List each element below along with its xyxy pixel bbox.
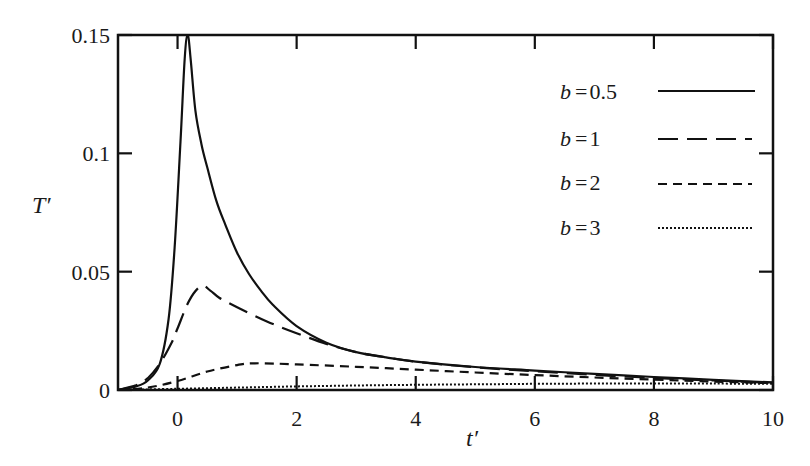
- axis-ticks: [118, 35, 773, 390]
- series-long-dash-line: [118, 286, 773, 390]
- y-tick-label: 0.1: [83, 141, 111, 166]
- x-tick-label: 2: [291, 406, 302, 431]
- x-axis-label: t′: [466, 425, 479, 451]
- y-tick-label: 0: [99, 378, 110, 403]
- series-short-dash-line: [118, 363, 773, 390]
- tick-labels: 024681000.050.10.15: [72, 23, 785, 431]
- x-tick-label: 6: [529, 406, 540, 431]
- x-tick-label: 4: [410, 406, 421, 431]
- chart: 024681000.050.10.15 T′ t′ b=0.5 b=1 b=2 …: [0, 0, 810, 466]
- y-axis-label: T′: [32, 192, 51, 218]
- y-tick-label: 0.15: [72, 23, 111, 48]
- legend-item-b-2: b=2: [560, 170, 752, 195]
- svg-text:b=1: b=1: [560, 126, 600, 151]
- y-tick-label: 0.05: [72, 260, 111, 285]
- legend-item-b-1: b=1: [560, 126, 752, 151]
- legend: b=0.5 b=1 b=2 b=3: [560, 79, 755, 240]
- plot-frame: [118, 35, 773, 390]
- svg-text:b=3: b=3: [560, 215, 600, 240]
- svg-text:b=2: b=2: [560, 170, 600, 195]
- legend-value: 0.5: [589, 79, 617, 104]
- legend-var: b: [560, 79, 571, 104]
- legend-item-b-3: b=3: [560, 215, 752, 240]
- x-tick-label: 10: [762, 406, 784, 431]
- svg-text:b=0.5: b=0.5: [560, 79, 617, 104]
- series-solid-line: [118, 35, 773, 390]
- x-tick-label: 8: [648, 406, 659, 431]
- legend-item-b-0-5: b=0.5: [560, 79, 755, 104]
- series-layer: [118, 35, 773, 390]
- x-tick-label: 0: [172, 406, 183, 431]
